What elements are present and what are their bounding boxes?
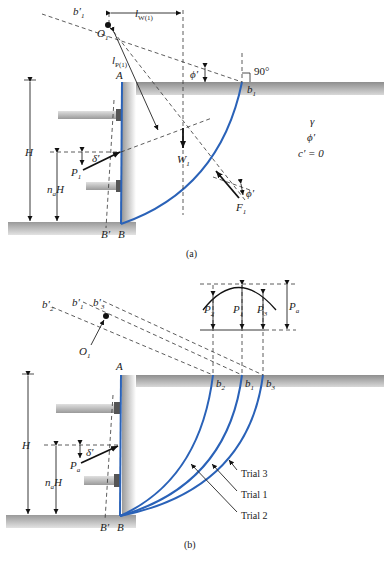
label-phi-F: ϕ′ — [246, 187, 255, 199]
pointer-trial-3 — [229, 460, 237, 470]
label-B-prime: B′ — [101, 228, 111, 240]
base-ground — [8, 222, 136, 235]
force-P1 — [83, 152, 120, 170]
label-90deg: 90° — [254, 65, 269, 77]
line-B-prime — [105, 395, 113, 520]
anchor-rod — [86, 182, 118, 190]
label-F1: F1 — [235, 201, 246, 216]
label-P1: P1 — [70, 166, 81, 181]
label-A: A — [115, 69, 123, 81]
label-B-prime: B′ — [100, 521, 110, 533]
caption-b: (b) — [184, 539, 196, 551]
wall-face — [120, 375, 121, 516]
label-O1: O1 — [79, 345, 90, 360]
label-P1: P1 — [232, 303, 243, 318]
wall-shadow — [122, 375, 136, 521]
line-b1prime-b1 — [83, 302, 242, 375]
label-delta: δ′ — [86, 446, 94, 458]
point-O1 — [105, 22, 111, 28]
label-trial-3: Trial 3 — [241, 468, 268, 479]
label-A: A — [115, 360, 123, 372]
label-trial-2: Trial 2 — [241, 510, 268, 521]
phi-F-arrows — [241, 184, 243, 195]
label-lP1: lP(1) — [112, 54, 128, 69]
label-naH: naH — [47, 183, 65, 198]
panel-b: b′2 b′1 b′3 O1 P2 P1 P3 Pa A b2 b1 b3 H … — [6, 284, 384, 551]
panel-a: b′1 O1 lW(1) lP(1) ϕ′ 90° A b1 H δ′ P1 n… — [8, 5, 384, 260]
label-Pa: Pa — [288, 300, 300, 315]
pointer-trial-1 — [212, 464, 237, 491]
right-angle-mark — [242, 73, 250, 82]
label-gamma: γ — [310, 115, 315, 127]
caption-a: (a) — [186, 248, 197, 260]
anchor-plate — [114, 474, 120, 487]
label-lW1: lW(1) — [135, 7, 154, 22]
point-O1 — [103, 313, 109, 319]
label-b1-prime: b′1 — [73, 5, 84, 20]
label-phi-top: ϕ′ — [190, 68, 199, 80]
line-b1prime-b1 — [42, 14, 242, 82]
anchor-rod — [84, 476, 116, 485]
anchor-rod — [58, 111, 118, 119]
label-B: B — [118, 228, 125, 240]
anchor-plate — [114, 402, 120, 414]
label-B: B — [117, 521, 124, 533]
line-B-prime — [106, 100, 114, 228]
label-trial-1: Trial 1 — [241, 489, 268, 500]
label-b1-prime: b′1 — [72, 296, 83, 311]
pointer-trial-2 — [191, 464, 237, 512]
label-H: H — [24, 146, 34, 158]
label-c-zero: c′ = 0 — [298, 147, 324, 159]
label-naH: naH — [45, 476, 63, 491]
anchor-rod — [56, 404, 116, 413]
label-H: H — [21, 439, 31, 451]
label-b3-prime: b′3 — [93, 296, 105, 311]
label-Pa-force: Pa — [69, 459, 81, 474]
wall-shadow — [122, 82, 136, 232]
label-delta: δ′ — [92, 152, 100, 164]
trial-wedge-diagram: b′1 O1 lW(1) lP(1) ϕ′ 90° A b1 H δ′ P1 n… — [0, 0, 385, 563]
wall-face — [121, 82, 122, 224]
label-P3: P3 — [256, 303, 268, 318]
label-b2-prime: b′2 — [42, 298, 54, 313]
label-O1: O1 — [97, 27, 108, 42]
pointer-O1 — [91, 320, 104, 345]
label-phi-soil: ϕ′ — [307, 131, 316, 143]
